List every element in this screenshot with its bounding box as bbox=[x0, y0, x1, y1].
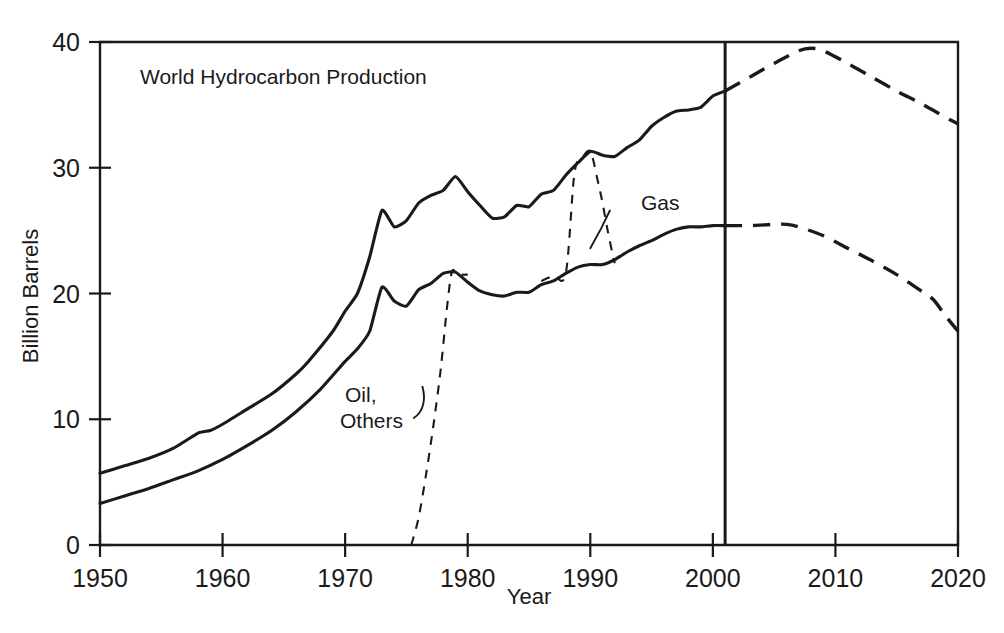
series-line-1 bbox=[100, 226, 725, 504]
chart-container: 010203040 195019601970198019902000201020… bbox=[0, 0, 1004, 633]
oil-others-leader-line bbox=[414, 387, 424, 418]
series-line-5 bbox=[725, 224, 958, 331]
chart-title: World Hydrocarbon Production bbox=[140, 65, 427, 88]
y-axis-tick-labels: 010203040 bbox=[52, 28, 80, 559]
x-tick-label-1950: 1950 bbox=[72, 564, 128, 592]
series-label-others: Others bbox=[340, 409, 403, 432]
x-tick-label-2010: 2010 bbox=[808, 564, 864, 592]
y-tick-label-10: 10 bbox=[52, 405, 80, 433]
x-tick-label-1970: 1970 bbox=[317, 564, 373, 592]
x-tick-label-2000: 2000 bbox=[685, 564, 741, 592]
y-tick-label-40: 40 bbox=[52, 28, 80, 56]
series-line-4 bbox=[725, 48, 958, 123]
x-tick-label-1980: 1980 bbox=[440, 564, 496, 592]
x-tick-label-2020: 2020 bbox=[930, 564, 986, 592]
series-label-gas: Gas bbox=[641, 191, 680, 214]
x-tick-label-1990: 1990 bbox=[562, 564, 618, 592]
y-tick-label-20: 20 bbox=[52, 280, 80, 308]
series-layer bbox=[100, 48, 958, 545]
leader-lines bbox=[414, 211, 610, 419]
hydrocarbon-production-chart: 010203040 195019601970198019902000201020… bbox=[0, 0, 1004, 633]
series-line-3 bbox=[411, 270, 467, 545]
y-axis-title: Billion Barrels bbox=[18, 229, 43, 364]
y-tick-label-30: 30 bbox=[52, 154, 80, 182]
x-tick-label-1960: 1960 bbox=[195, 564, 251, 592]
series-label-oil: Oil, bbox=[345, 383, 377, 406]
series-line-2 bbox=[541, 151, 615, 281]
x-axis-title: Year bbox=[507, 584, 551, 609]
series-line-0 bbox=[100, 91, 725, 473]
y-tick-label-0: 0 bbox=[66, 531, 80, 559]
